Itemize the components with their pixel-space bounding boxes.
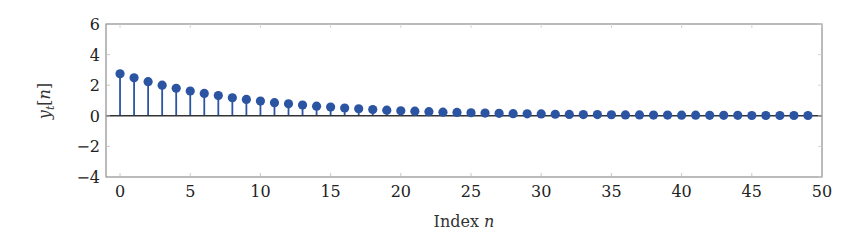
x-tick-label: 10 [250,182,270,201]
stem-marker [649,110,658,119]
axes-frame [106,24,822,177]
x-axis-label: Index n [434,212,495,231]
stem-marker [438,108,447,117]
x-tick-label: 15 [320,182,340,201]
stem-marker [747,111,756,120]
y-tick-label: 6 [90,15,100,34]
x-axis-label-var: n [484,212,494,231]
stem-marker [537,109,546,118]
x-tick-label: 50 [812,182,832,201]
x-tick-label: 30 [531,182,551,201]
x-tick-label: 0 [115,182,125,201]
stem-marker [340,103,349,112]
stem-marker [186,86,195,95]
y-axis-ticks: −4−20246 [76,15,822,187]
stem-marker [452,108,461,117]
y-tick-label: −4 [76,168,100,187]
stem-marker [172,84,181,93]
stem-marker [424,107,433,116]
stem-marker [368,105,377,114]
x-tick-label: 40 [671,182,691,201]
stem-marker [551,110,560,119]
stem-marker [677,111,686,120]
y-tick-label: 0 [90,107,100,126]
plot-frame [106,24,822,177]
x-tick-label: 35 [601,182,621,201]
stem-marker [579,110,588,119]
data-series [106,69,822,120]
stem-marker [144,77,153,86]
stem-marker [382,106,391,115]
stem-marker [789,111,798,120]
stem-marker [635,110,644,119]
stem-marker [354,104,363,113]
stem-marker [593,110,602,119]
stem-marker [621,110,630,119]
x-tick-label: 45 [742,182,762,201]
y-tick-label: −2 [76,137,100,156]
y-tick-label: 4 [90,46,100,65]
stem-marker [523,109,532,118]
x-tick-label: 20 [391,182,411,201]
stem-marker [691,111,700,120]
stem-marker [663,110,672,119]
stem-marker [242,95,251,104]
stem-marker [803,111,812,120]
stem-marker [158,81,167,90]
stem-marker [494,109,503,118]
x-axis-label-text: Index [434,212,484,231]
stem-marker [326,102,335,111]
stem-marker [607,110,616,119]
y-axis-label: yt[n] [35,83,57,120]
stem-marker [761,111,770,120]
stem-marker [298,100,307,109]
stem-marker [129,73,138,82]
stem-marker [733,111,742,120]
stem-marker [719,111,728,120]
stem-marker [270,98,279,107]
stem-marker [410,107,419,116]
stem-marker [115,69,124,78]
stem-marker [705,111,714,120]
stem-marker [200,89,209,98]
stem-marker [284,99,293,108]
x-tick-label: 5 [185,182,195,201]
stem-marker [775,111,784,120]
stem-marker [565,110,574,119]
stem-marker [480,108,489,117]
stem-marker [256,97,265,106]
x-tick-label: 25 [461,182,481,201]
stem-marker [509,109,518,118]
stem-marker [396,106,405,115]
stem-marker [312,102,321,111]
stem-marker [228,93,237,102]
stem-marker [466,108,475,117]
stem-chart: 05101520253035404550 −4−20246 Index n yt… [0,0,860,240]
y-tick-label: 2 [90,76,100,95]
stem-marker [214,91,223,100]
